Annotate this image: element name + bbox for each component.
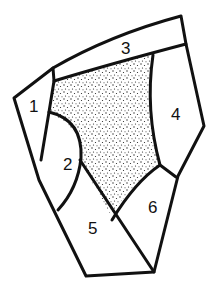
region-center-stippled bbox=[50, 55, 160, 215]
region-2-label: 2 bbox=[63, 155, 72, 174]
region-1-label: 1 bbox=[29, 97, 38, 116]
segmented-shape-diagram: 1 2 3 4 5 6 bbox=[0, 0, 215, 289]
region-5-label: 5 bbox=[88, 219, 97, 238]
region-3-label: 3 bbox=[121, 39, 130, 58]
region-6-label: 6 bbox=[148, 198, 157, 217]
region-4-label: 4 bbox=[171, 105, 180, 124]
